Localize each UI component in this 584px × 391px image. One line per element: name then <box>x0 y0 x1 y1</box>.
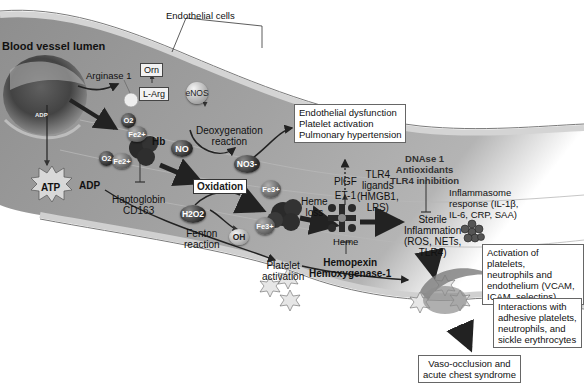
loss-text: loss <box>301 207 328 218</box>
hemopexin-text: Hemopexin <box>309 257 391 268</box>
inflammasome-text: Inflammasome <box>449 187 518 198</box>
antioxidants-text: Antioxidants <box>390 164 459 175</box>
haptoglobin-text: Haptoglobin <box>112 194 165 205</box>
cytokines-text: IL-6, CRP, SAA) <box>449 209 518 220</box>
plgf-et1-label: PlGF ET-1 <box>334 176 357 201</box>
platelet-text: Platelet <box>262 260 304 271</box>
lps-text: LPS) <box>357 202 399 213</box>
tlr4-text: TLR4) <box>404 247 461 258</box>
box-line: Endothelial dysfunction <box>299 107 401 118</box>
inflammasome-label: Inflammasome response (IL-1β, IL-6, CRP,… <box>449 187 518 220</box>
arginase-label: Arginase 1 <box>86 70 131 81</box>
oh-molecule: OH <box>229 229 249 245</box>
box-line: Interactions with <box>498 301 577 312</box>
heme-text: Heme <box>301 196 328 207</box>
tlr4-inhibition-text: TLR4 inhibition <box>390 175 459 186</box>
fenton-text: Fenton <box>184 228 220 239</box>
l-arg-box: L-Arg <box>139 87 169 101</box>
hb-label: Hb <box>152 136 165 147</box>
box-line: sickle erythrocytes <box>498 334 577 345</box>
endothelial-cells-label: Endothelial cells <box>166 10 235 21</box>
no-text: NO <box>175 144 189 154</box>
dnase-text: DNAse 1 <box>390 153 459 164</box>
fe2-text: Fe2+ <box>128 130 145 139</box>
box-line: neutrophils and <box>487 269 579 280</box>
fe2-molecule-left: Fe2+ <box>112 153 132 169</box>
adp-small-label: ADP <box>35 110 48 121</box>
inflammasome-response-text: response (IL-1β, <box>449 198 518 209</box>
haptoglobin-label: Haptoglobin CD163 <box>112 194 165 216</box>
orn-box: Orn <box>140 63 163 77</box>
hemolysis-pathway-diagram: Blood vessel lumen Endothelial cells Arg… <box>0 0 584 391</box>
fenton-label: Fenton reaction <box>184 228 220 250</box>
ros-nets-text: (ROS, NETs, <box>404 236 461 247</box>
oh-text: OH <box>233 232 246 242</box>
fe3-text: Fe3+ <box>262 185 279 194</box>
o2-text: O2 <box>101 154 111 163</box>
box-line: adhesive platelets, <box>498 312 577 323</box>
adp-label: ADP <box>79 180 100 191</box>
heme-label: Heme <box>333 236 358 247</box>
atp-label: ATP <box>41 182 60 193</box>
no-molecule: NO <box>171 140 193 157</box>
vessel-lumen-label: Blood vessel lumen <box>2 40 105 53</box>
hemopexin-label: Hemopexin Hemoxygenase-1 <box>309 257 391 279</box>
heme-loss-label: Heme loss <box>301 196 328 218</box>
o2-text: O2 <box>123 116 133 125</box>
no3-molecule: NO3- <box>234 155 260 173</box>
fe2-molecule-top: Fe2+ <box>127 126 147 142</box>
interactions-box: Interactions with adhesive platelets, ne… <box>493 298 582 348</box>
cd163-text: CD163 <box>112 205 165 216</box>
vessel-lumen-text: Blood vessel lumen <box>2 40 105 52</box>
plgf-text: PlGF <box>334 176 357 187</box>
deoxygenation-label: Deoxygenation reaction <box>196 125 263 147</box>
dnase-label: DNAse 1 Antioxidants TLR4 inhibition <box>390 153 459 186</box>
box-line: Pulmonary hypertension <box>299 129 401 140</box>
box-line: acute chest syndrome <box>423 369 516 380</box>
box-line: Vaso-occlusion and <box>423 358 516 369</box>
fe3-text: Fe3+ <box>256 222 273 231</box>
enos-molecule: eNOS <box>186 82 208 104</box>
reaction-text: reaction <box>184 239 220 250</box>
hmgb1-text: (HMGB1, <box>357 191 399 202</box>
box-line: neutrophils, and <box>498 323 577 334</box>
fe2-text: Fe2+ <box>113 157 130 166</box>
fe3-molecule-bottom: Fe3+ <box>255 217 275 235</box>
fe3-molecule-top: Fe3+ <box>261 180 281 198</box>
reaction-text: reaction <box>196 136 263 147</box>
endothelial-dysfunction-box: Endothelial dysfunction Platelet activat… <box>294 104 406 143</box>
deoxygenation-text: Deoxygenation <box>196 125 263 136</box>
activation-text: activation <box>262 271 304 282</box>
et1-text: ET-1 <box>334 190 357 201</box>
platelet-activation-label: Platelet activation <box>262 260 304 282</box>
hemoxygenase-text: Hemoxygenase-1 <box>309 268 391 279</box>
h2o2-molecule: H2O2 <box>180 205 206 223</box>
h2o2-text: H2O2 <box>182 209 204 219</box>
box-line: Platelet activation <box>299 118 401 129</box>
enos-text: eNOS <box>185 88 208 98</box>
box-line: Activation of platelets, <box>487 247 579 269</box>
vaso-occlusion-box: Vaso-occlusion and acute chest syndrome <box>418 355 521 383</box>
no3-text: NO3- <box>237 159 257 169</box>
inflammation-text: Inflammation <box>404 225 461 236</box>
sterile-inflammation-label: Sterile Inflammation (ROS, NETs, TLR4) <box>404 214 461 258</box>
oxidation-box: Oxidation <box>193 179 247 194</box>
activation-box: Activation of platelets, neutrophils and… <box>482 244 584 305</box>
box-line: endothelium (VCAM, <box>487 280 579 291</box>
